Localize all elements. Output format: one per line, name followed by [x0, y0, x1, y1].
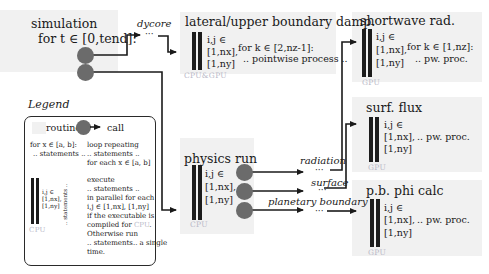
legend-par-desc-6: Otherwise run: [87, 230, 138, 239]
legend-call-label: call: [107, 122, 124, 134]
legend-par-statements: .. statements ..: [62, 184, 69, 225]
legend-loop-desc-2: .. statements ..: [87, 150, 140, 159]
legend-loop-desc-3: for each x ∈ [a, b]: [87, 159, 151, 168]
legend-loop-code-2: .. statements ..: [33, 150, 86, 159]
legend-par-desc-8: time.: [87, 248, 105, 257]
legend-par-desc-5-text: compiled for: [87, 221, 132, 229]
legend-par-ij-3: [1,ny]: [42, 202, 60, 210]
legend-loop-desc-1: loop repeating: [87, 141, 139, 150]
legend-par-desc-0: execute: [87, 176, 115, 185]
legend-par-desc-2: in parallel for each: [87, 194, 154, 203]
legend-par-desc-4: if the executable is: [87, 212, 154, 221]
legend-par-desc-device: CPU: [134, 221, 149, 229]
legend-par-desc-5: compiled for CPU.: [87, 221, 151, 230]
legend-loop-code-1: for x ∈ [a, b]:: [30, 141, 77, 150]
parallel-bars-icon: [31, 178, 42, 224]
legend-par-desc-1: .. statements ..: [87, 185, 140, 194]
legend-call-arrow: [0, 0, 489, 274]
legend-par-device: CPU: [29, 226, 46, 234]
legend-par-desc-suffix: .: [149, 221, 151, 229]
legend-par-desc-7: .. statements.. a single: [87, 239, 167, 248]
legend-par-desc-3: i,j ∈ [1,nx], [1,ny]: [87, 203, 149, 212]
